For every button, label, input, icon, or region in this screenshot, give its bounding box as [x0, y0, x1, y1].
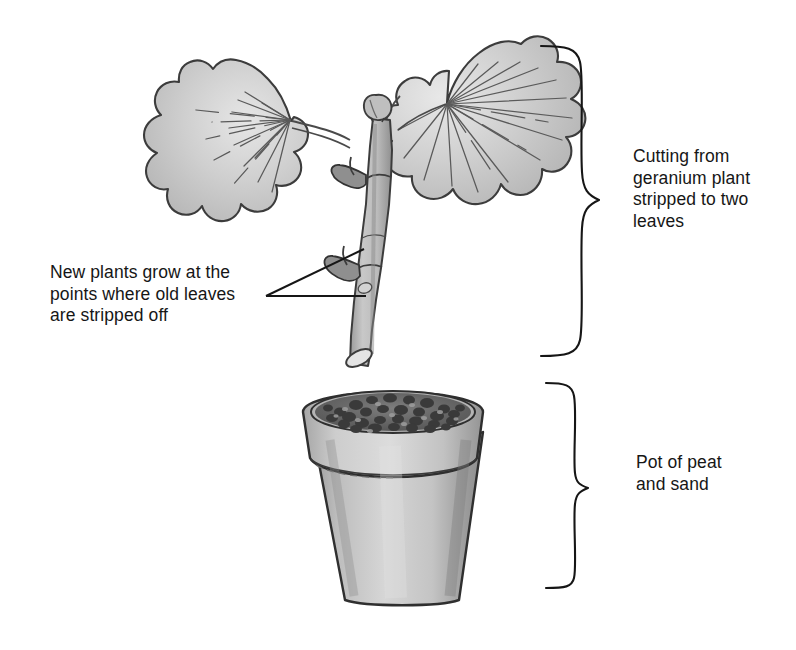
figure-canvas: Cutting from geranium plant stripped to …	[0, 0, 796, 650]
growing-tip-bud	[364, 95, 392, 122]
bud-head	[364, 95, 392, 120]
geranium-leaf-left	[144, 59, 350, 221]
leaf-left-blade	[144, 59, 308, 221]
label-cutting-from-geranium: Cutting from geranium plant stripped to …	[633, 146, 793, 232]
node-upper-stub	[331, 165, 366, 188]
geranium-leaf-right	[380, 36, 586, 204]
cutting-stem	[324, 95, 392, 371]
label-new-plants-grow: New plants grow at the points where old …	[50, 262, 300, 327]
label-pot-of-peat-and-sand: Pot of peat and sand	[636, 452, 786, 495]
stem-node-upper	[331, 157, 366, 188]
brace-pot	[546, 383, 588, 588]
pot-highlight	[390, 446, 396, 598]
